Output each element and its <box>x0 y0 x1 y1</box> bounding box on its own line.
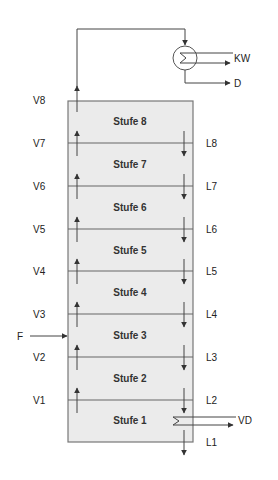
stage-label: Stufe 2 <box>113 373 147 384</box>
distillation-column-diagram: Stufe 8 Stufe 7 Stufe 6 Stufe 5 Stufe 4 … <box>0 0 278 480</box>
condenser-circle-icon <box>173 46 197 70</box>
liquid-label: L8 <box>206 138 218 149</box>
condenser: KW D <box>173 46 251 89</box>
reboiler-vapor-label: VD <box>238 415 252 426</box>
overhead-vapor-line <box>77 29 185 112</box>
vapor-label: V5 <box>33 224 46 235</box>
overhead-pipe <box>77 29 185 88</box>
stage-label: Stufe 7 <box>113 159 147 170</box>
vapor-label: V4 <box>33 266 46 277</box>
distillate-label: D <box>234 78 241 89</box>
feed-label: F <box>17 331 23 342</box>
stage-label: Stufe 5 <box>113 245 147 256</box>
vapor-label: V6 <box>33 181 46 192</box>
liquid-label: L2 <box>206 395 218 406</box>
liquid-label: L5 <box>206 266 218 277</box>
liquid-label: L3 <box>206 352 218 363</box>
liquid-label: L7 <box>206 181 218 192</box>
liquid-label: L4 <box>206 309 218 320</box>
coolant-label: KW <box>234 53 251 64</box>
vapor-label: V7 <box>33 138 46 149</box>
feed-stream: F <box>17 331 67 342</box>
stage-label: Stufe 6 <box>113 202 147 213</box>
vapor-labels: V8 V7 V6 V5 V4 V3 V2 V1 <box>33 95 46 406</box>
vapor-label: V2 <box>33 352 46 363</box>
vapor-label: V8 <box>33 95 46 106</box>
stage-label: Stufe 1 <box>113 415 147 426</box>
liquid-labels: L8 L7 L6 L5 L4 L3 L2 L1 <box>206 138 218 448</box>
stage-label: Stufe 3 <box>113 330 147 341</box>
stage-label: Stufe 4 <box>113 287 147 298</box>
liquid-label: L6 <box>206 224 218 235</box>
stage-label: Stufe 8 <box>113 116 147 127</box>
vapor-label: V1 <box>33 395 46 406</box>
distillate-line <box>185 70 230 83</box>
vapor-label: V3 <box>33 309 46 320</box>
liquid-label: L1 <box>206 437 218 448</box>
